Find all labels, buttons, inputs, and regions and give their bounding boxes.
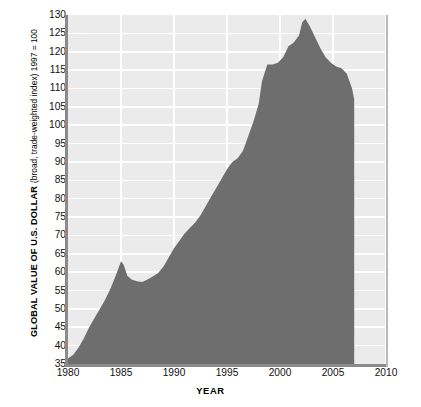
y-tick-label: 120 [49,47,66,57]
x-axis-title: YEAR [0,385,421,396]
y-axis-tick-labels: 3540455055606570758085909510010511011512… [38,0,66,407]
plot-area [68,15,386,364]
y-tick-label: 125 [49,28,66,38]
plot-right-edge [386,15,388,367]
x-tick-label: 2005 [322,368,345,378]
x-tick-label: 1995 [216,368,239,378]
y-tick-label: 130 [49,10,66,20]
y-tick-label: 110 [50,83,66,93]
y-tick-label: 100 [49,120,66,130]
x-tick-label: 1990 [163,368,186,378]
x-tick-label: 2000 [269,368,292,378]
x-axis-tick-labels: 1980198519901995200020052010 [0,368,421,384]
y-tick-label: 115 [50,65,66,75]
x-tick-label: 2010 [375,368,398,378]
x-tick-label: 1980 [57,368,80,378]
area-series-dollar-index [68,15,386,364]
x-tick-label: 1985 [110,368,133,378]
area-fill-path [68,19,354,364]
y-tick-label: 105 [49,102,66,112]
chart-container: GLOBAL VALUE OF U.S. DOLLAR (broad, trad… [0,0,421,407]
